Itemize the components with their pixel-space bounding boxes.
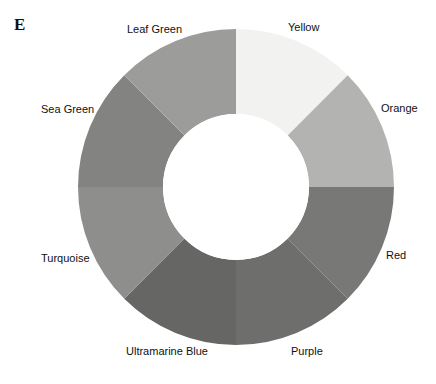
segment-label-leaf-green: Leaf Green [127,23,182,35]
segment-label-yellow: Yellow [288,21,319,33]
segment-label-sea-green: Sea Green [41,103,94,115]
color-wheel-chart [0,0,436,384]
segment-label-red: Red [386,249,406,261]
wheel-inner-hole [163,114,309,260]
segment-label-turquoise: Turquoise [41,252,90,264]
segment-label-orange: Orange [381,102,418,114]
segment-label-ultramarine-blue: Ultramarine Blue [126,345,208,357]
segment-label-purple: Purple [291,345,323,357]
figure-container: E Yellow Orange Red Purple Ultramarine B… [0,0,436,384]
